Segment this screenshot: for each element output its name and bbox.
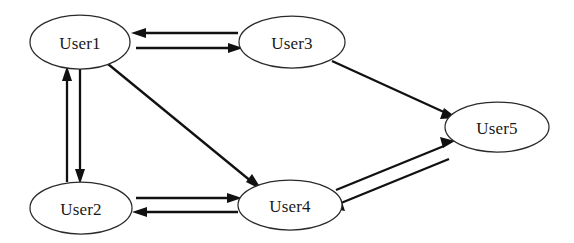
edge-user1-user3 [131, 28, 243, 53]
edge-user3-user5-line [332, 61, 446, 113]
edge-user2-user4 [132, 193, 242, 217]
edge-user1-user4-line [108, 64, 252, 182]
node-user4-label: User4 [269, 197, 311, 216]
edge-user1-user2 [62, 66, 85, 184]
edge-user1-user4 [108, 64, 262, 190]
node-user4[interactable]: User4 [238, 180, 342, 230]
node-user2-label: User2 [60, 200, 102, 219]
node-user1[interactable]: User1 [30, 15, 130, 69]
node-user5-label: User5 [476, 119, 518, 138]
node-user2[interactable]: User2 [30, 182, 132, 234]
graph-diagram: User1 User3 User5 User2 User4 [0, 0, 574, 243]
edge-user3-user5 [332, 61, 457, 119]
graph-canvas: User1 User3 User5 User2 User4 [0, 0, 574, 243]
node-user5[interactable]: User5 [445, 102, 549, 152]
edge-user4-user5 [329, 137, 455, 211]
edge-user1-user3-arrowhead-left [131, 28, 146, 38]
node-user3-label: User3 [271, 34, 313, 53]
edge-user2-user4-arrowhead-left [132, 207, 147, 217]
node-user3[interactable]: User3 [239, 16, 345, 68]
node-user1-label: User1 [59, 34, 101, 53]
